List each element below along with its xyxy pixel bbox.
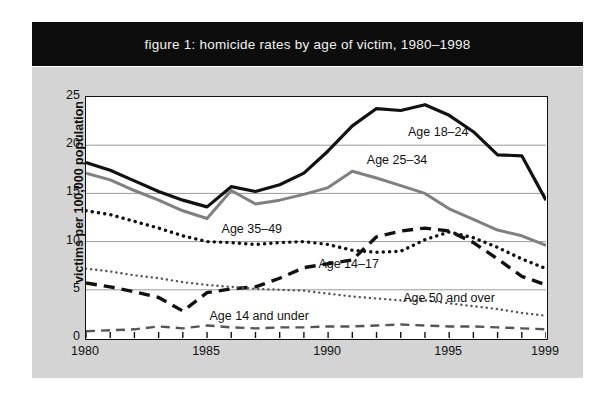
x-tick-label: 1995 xyxy=(418,344,478,358)
series-line-6 xyxy=(86,325,546,332)
series-label-3: Age 35–49 xyxy=(222,222,282,236)
figure-container: figure 1: homicide rates by age of victi… xyxy=(0,0,606,401)
x-tick-label: 1980 xyxy=(55,344,115,358)
series-line-2 xyxy=(86,171,546,245)
y-tick-label: 10 xyxy=(40,233,80,247)
y-tick-label: 5 xyxy=(40,281,80,295)
series-label-2: Age 25–34 xyxy=(367,153,427,167)
x-axis-ticks: 19801985199019951999 xyxy=(85,344,548,364)
page-title: figure 1: homicide rates by age of victi… xyxy=(145,37,471,52)
series-label-1: Age 18–24 xyxy=(408,125,468,139)
x-tick-label: 1999 xyxy=(515,344,575,358)
y-tick-label: 15 xyxy=(40,184,80,198)
plot-area: Age 18–24Age 25–34Age 35–49Age 14–17Age … xyxy=(85,96,548,340)
x-tick-label: 1985 xyxy=(176,344,236,358)
series-label-4: Age 14–17 xyxy=(318,257,378,271)
y-tick-label: 20 xyxy=(40,136,80,150)
series-label-5: Age 50 and over xyxy=(403,291,495,305)
y-tick-label: 25 xyxy=(40,88,80,102)
figure-title-band: figure 1: homicide rates by age of victi… xyxy=(32,22,583,66)
y-axis-ticks: 0510152025 xyxy=(36,96,80,340)
series-label-6: Age 14 and under xyxy=(209,309,308,323)
y-tick-label: 0 xyxy=(40,329,80,343)
x-tick-label: 1990 xyxy=(297,344,357,358)
